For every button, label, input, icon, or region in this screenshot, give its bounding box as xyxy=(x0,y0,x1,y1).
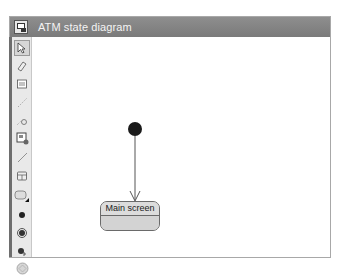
choice-tool[interactable] xyxy=(14,260,30,275)
constraint-icon xyxy=(16,114,28,126)
state-body-compartment xyxy=(101,216,159,231)
composite-state-tool[interactable] xyxy=(14,168,30,184)
picture-icon xyxy=(16,132,29,145)
region-tool[interactable] xyxy=(14,130,30,146)
window-title: ATM state diagram xyxy=(38,21,132,33)
initial-state-tool[interactable] xyxy=(14,207,30,223)
note-tool[interactable] xyxy=(14,58,30,74)
anchor-tool[interactable] xyxy=(14,94,30,110)
diagram-icon xyxy=(14,20,28,34)
pointer-icon xyxy=(16,42,28,54)
state-icon xyxy=(14,189,30,203)
transition-arrow[interactable] xyxy=(32,37,332,259)
diagram-window: ATM state diagram xyxy=(9,16,331,258)
document-icon xyxy=(16,78,28,90)
constraint-tool[interactable] xyxy=(14,112,30,128)
eraser-icon xyxy=(16,60,28,72)
palette-toolbar xyxy=(10,37,32,257)
initial-node[interactable] xyxy=(128,122,142,136)
final-node-icon xyxy=(16,227,28,239)
composite-state-icon xyxy=(16,170,28,182)
text-tool[interactable] xyxy=(14,76,30,92)
state-tool[interactable] xyxy=(14,188,30,204)
line-icon xyxy=(16,151,28,163)
initial-node-icon xyxy=(16,209,28,221)
transition-tool[interactable] xyxy=(14,149,30,165)
history-tool[interactable] xyxy=(14,243,30,259)
state-name-label: Main screen xyxy=(101,202,159,216)
diagram-canvas[interactable]: Main screen xyxy=(32,37,330,257)
state-main-screen[interactable]: Main screen xyxy=(100,201,160,231)
final-state-tool[interactable] xyxy=(14,225,30,241)
title-bar[interactable]: ATM state diagram xyxy=(10,17,330,37)
select-tool[interactable] xyxy=(14,40,30,56)
history-icon xyxy=(16,245,28,257)
choice-icon xyxy=(16,262,29,275)
dashed-line-icon xyxy=(16,96,28,108)
